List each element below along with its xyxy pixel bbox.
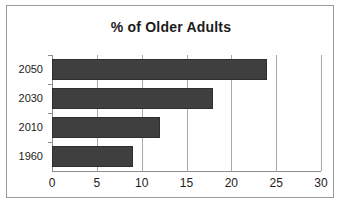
- category-label-2010: 2010: [19, 121, 43, 133]
- x-tick-label-25: 25: [269, 176, 282, 190]
- category-label-1960: 1960: [19, 150, 43, 162]
- bar-1960: [52, 146, 133, 166]
- x-tick-label-0: 0: [49, 176, 56, 190]
- chart-title: % of Older Adults: [7, 19, 335, 35]
- category-tick-2050: [48, 55, 52, 56]
- x-tick-label-15: 15: [180, 176, 193, 190]
- x-tick-label-5: 5: [93, 176, 100, 190]
- x-tick-label-30: 30: [314, 176, 327, 190]
- x-axis-line: [52, 171, 321, 172]
- category-tick-2030: [48, 84, 52, 85]
- bar-2010: [52, 117, 160, 137]
- category-label-2050: 2050: [19, 63, 43, 75]
- bar-row: 2010: [52, 117, 321, 137]
- bar-2030: [52, 88, 213, 108]
- chart-screenshot: % of Older Adults 2050203020101960 05101…: [0, 0, 341, 205]
- bar-2050: [52, 59, 267, 79]
- category-tick-1960: [48, 142, 52, 143]
- bar-row: 1960: [52, 146, 321, 166]
- x-tick-label-20: 20: [225, 176, 238, 190]
- bar-row: 2030: [52, 88, 321, 108]
- category-label-2030: 2030: [19, 92, 43, 104]
- gridline-30: [321, 55, 322, 171]
- category-tick-2010: [48, 113, 52, 114]
- x-tick-label-10: 10: [135, 176, 148, 190]
- plot-area: 2050203020101960 051015202530: [52, 55, 321, 171]
- bar-row: 2050: [52, 59, 321, 79]
- chart-frame: % of Older Adults 2050203020101960 05101…: [6, 5, 334, 198]
